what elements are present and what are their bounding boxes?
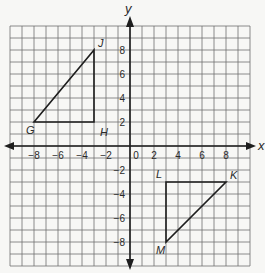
y-tick-label: 2 bbox=[119, 117, 125, 128]
x-tick-label: −8 bbox=[28, 150, 40, 161]
coordinate-plane: x y −8−6−4−2024688642−2−4−6−8 GHJLKM bbox=[0, 0, 265, 273]
x-tick-label: 0 bbox=[133, 150, 139, 161]
y-tick-label: −6 bbox=[114, 213, 126, 224]
y-axis-up-arrow-icon bbox=[126, 16, 134, 27]
x-axis-right-arrow-icon bbox=[246, 142, 256, 150]
vertex-label-m: M bbox=[156, 244, 166, 256]
y-tick-label: −2 bbox=[114, 165, 126, 176]
y-tick-label: 4 bbox=[119, 93, 125, 104]
y-tick-label: 6 bbox=[119, 69, 125, 80]
x-axis-left-arrow-icon bbox=[4, 142, 14, 150]
x-tick-label: −4 bbox=[76, 150, 88, 161]
y-axis-label: y bbox=[124, 1, 133, 16]
x-tick-label: −2 bbox=[100, 150, 112, 161]
y-tick-label: 8 bbox=[119, 45, 125, 56]
vertex-label-j: J bbox=[97, 37, 104, 49]
vertex-label-g: G bbox=[26, 124, 35, 136]
x-axis-label: x bbox=[257, 138, 265, 153]
x-tick-label: −6 bbox=[52, 150, 64, 161]
y-axis-down-arrow-icon bbox=[126, 259, 134, 270]
x-tick-label: 8 bbox=[223, 150, 229, 161]
y-tick-label: −4 bbox=[114, 189, 126, 200]
triangle-lkm bbox=[166, 182, 226, 242]
y-tick-label: −8 bbox=[114, 237, 126, 248]
vertex-label-k: K bbox=[230, 169, 238, 181]
x-tick-label: 2 bbox=[151, 150, 157, 161]
x-tick-label: 4 bbox=[175, 150, 181, 161]
x-tick-label: 6 bbox=[199, 150, 205, 161]
vertex-label-h: H bbox=[100, 126, 108, 138]
vertex-label-l: L bbox=[156, 168, 162, 180]
